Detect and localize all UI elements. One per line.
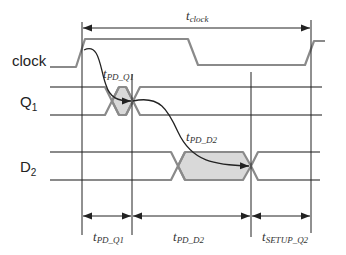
t-pd-q1-label: tPD_Q1 [93, 229, 124, 245]
t-clock-label: tclock [186, 8, 210, 24]
t-setup-q2-label: tSETUP_Q2 [262, 229, 309, 245]
signal-label-d2: D2 [20, 158, 37, 178]
pd-d2-curve-label: tPD_D2 [186, 129, 218, 145]
d2-waveform-top [50, 152, 185, 180]
pd-q1-curve-label: tPD_Q1 [103, 66, 134, 82]
d2-waveform-after-bottom [251, 166, 320, 180]
clock-waveform [50, 39, 325, 67]
d2-waveform-after-top [251, 152, 320, 166]
q1-waveform-top-after [126, 87, 322, 115]
timing-diagram: clock Q1 D2 tclock tPD_Q1 tPD_D2 tPD_Q1 … [0, 0, 346, 255]
t-pd-d2-label: tPD_D2 [173, 229, 205, 245]
d2-waveform-bottom [50, 152, 185, 180]
signal-label-clock: clock [12, 52, 47, 69]
signal-label-q1: Q1 [20, 93, 38, 113]
q1-waveform-bottom-after [126, 87, 322, 115]
